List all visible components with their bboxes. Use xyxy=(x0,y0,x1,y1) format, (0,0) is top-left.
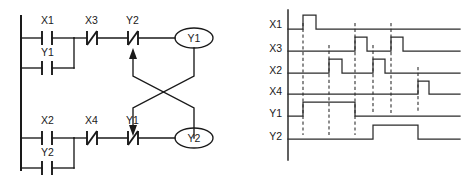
timing-diagram-panel: X1 X3 X2 X4 Y1 Y2 xyxy=(248,0,470,186)
waveform-x1 xyxy=(288,15,460,29)
timing-markers xyxy=(303,23,418,135)
output-coil-y2-label: Y2 xyxy=(188,132,201,144)
contact-y2-nc-label: Y2 xyxy=(126,14,139,26)
waveform-y1 xyxy=(288,102,460,116)
ladder-diagram-panel: X1 Y1 X3 xyxy=(0,0,248,186)
contact-x4-nc[interactable] xyxy=(87,131,97,145)
waveform-y2 xyxy=(288,125,460,139)
contact-y1-no-seal[interactable] xyxy=(42,61,52,75)
contact-y1-nc-label: Y1 xyxy=(126,114,139,126)
timing-label-y2: Y2 xyxy=(269,130,282,142)
contact-x3-label: X3 xyxy=(85,14,98,26)
timing-label-x2: X2 xyxy=(269,64,282,76)
contact-y2-seal-label: Y2 xyxy=(41,146,54,158)
contact-x1-no[interactable] xyxy=(42,31,52,45)
waveform-x2 xyxy=(288,59,460,73)
contact-x2-no[interactable] xyxy=(42,131,52,145)
timing-label-x4: X4 xyxy=(269,85,282,97)
ladder-diagram-svg: X1 Y1 X3 xyxy=(0,0,248,186)
cross-link-y2-arrowhead xyxy=(129,48,137,59)
contact-x4-label: X4 xyxy=(85,114,98,126)
contact-y2-no-seal[interactable] xyxy=(42,161,52,175)
timing-diagram-svg: X1 X3 X2 X4 Y1 Y2 xyxy=(248,0,470,186)
contact-x1-label: X1 xyxy=(41,14,54,26)
contact-x3-nc[interactable] xyxy=(87,31,97,45)
output-coil-y1[interactable]: Y1 xyxy=(175,28,213,48)
timing-label-x1: X1 xyxy=(269,18,282,30)
waveform-x4 xyxy=(288,81,460,94)
output-coil-y1-label: Y1 xyxy=(188,32,201,44)
cross-link-y1-to-rung2 xyxy=(133,48,194,128)
cross-link-y2-to-rung1 xyxy=(133,56,194,138)
timing-label-x3: X3 xyxy=(269,42,282,54)
waveform-x3 xyxy=(288,37,460,51)
figure-root: X1 Y1 X3 xyxy=(0,0,470,186)
contact-x2-label: X2 xyxy=(41,114,54,126)
timing-label-y1: Y1 xyxy=(269,107,282,119)
contact-y2-nc[interactable] xyxy=(128,31,138,45)
contact-y1-seal-label: Y1 xyxy=(41,46,54,58)
